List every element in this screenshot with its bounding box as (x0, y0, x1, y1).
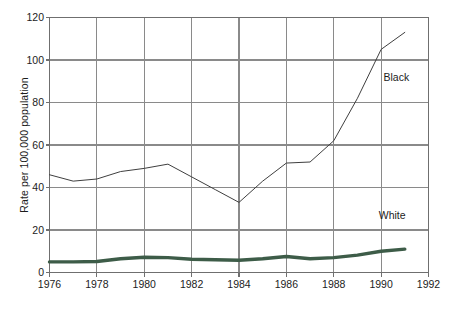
series-annotation-white: White (379, 209, 406, 221)
chart-plot-area (0, 0, 451, 313)
y-axis-tick-label: 120 (4, 12, 44, 22)
series-line-black (50, 32, 405, 202)
y-axis-tick-label: 60 (4, 140, 44, 150)
y-axis-tick-label: 80 (4, 97, 44, 107)
x-axis-tick-label: 1992 (399, 278, 451, 290)
series-line-white (50, 249, 405, 262)
y-axis-tick-labels: 020406080100120 (0, 0, 44, 313)
y-axis-tick-label: 100 (4, 55, 44, 65)
y-axis-tick-label: 40 (4, 182, 44, 192)
chart-container: Rate per 100,000 population 020406080100… (0, 0, 451, 313)
y-axis-tick-label: 20 (4, 225, 44, 235)
series-annotation-black: Black (383, 71, 409, 83)
y-axis-tick-label: 0 (4, 267, 44, 277)
